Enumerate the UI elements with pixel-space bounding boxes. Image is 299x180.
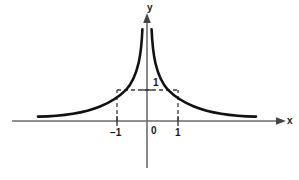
tick-label-x-1: 1 [175,128,181,138]
curve-left-branch [38,29,142,116]
x-axis-label: x [287,116,293,126]
x-axis [12,117,286,125]
curve-right-branch [152,29,256,116]
tick-label-y-1: 1 [153,78,159,88]
tick-label-x-minus-1: −1 [110,128,121,138]
x-axis-arrowhead [276,117,286,125]
y-axis-label: y [147,3,153,13]
plot-canvas [0,0,299,180]
origin-label: 0 [151,126,157,136]
y-axis-arrowhead [143,13,151,23]
graph-figure: y x −1 1 0 1 [0,0,299,180]
